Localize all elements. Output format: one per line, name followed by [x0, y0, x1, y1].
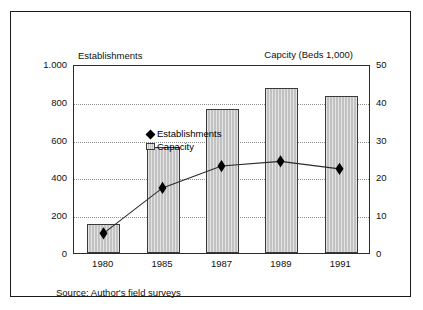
left-axis-tick: 800 [33, 98, 67, 108]
legend-item-capacity: Capacity [146, 141, 221, 154]
legend-item-establishments: Establishments [146, 128, 221, 141]
diamond-marker [218, 160, 226, 172]
right-axis-tick: 40 [376, 98, 404, 108]
legend-label-establishments: Establishments [157, 128, 221, 141]
left-axis-tick: 200 [33, 211, 67, 221]
x-axis-tick: 1991 [312, 258, 368, 269]
source-note: Source: Author's field surveys [56, 287, 181, 298]
x-axis-tick-labels: 19801985198719891991 [73, 258, 370, 272]
chart-legend: Establishments Capacity [146, 128, 221, 153]
right-axis-tick: 30 [376, 136, 404, 146]
diamond-marker [336, 163, 344, 175]
x-axis-tick: 1985 [134, 258, 190, 269]
x-axis-tick: 1989 [253, 258, 309, 269]
chart-frame: Establishments Capcity (Beds 1,000) 0200… [10, 11, 411, 297]
x-axis-tick: 1987 [194, 258, 250, 269]
left-axis-tick-labels: 02004006008001.000 [33, 65, 67, 254]
right-axis-title: Capcity (Beds 1,000) [264, 49, 353, 60]
plot-area: Establishments Capacity [73, 65, 370, 254]
diamond-marker [100, 227, 108, 239]
left-axis-tick: 1.000 [33, 60, 67, 70]
left-axis-tick: 600 [33, 136, 67, 146]
diamond-marker-icon [146, 129, 156, 139]
x-axis-tick: 1980 [75, 258, 131, 269]
left-axis-title: Establishments [78, 50, 142, 61]
left-axis-tick: 400 [33, 173, 67, 183]
line-series-establishments [74, 66, 369, 253]
diamond-marker [159, 182, 167, 194]
left-axis-tick: 0 [33, 249, 67, 259]
diamond-marker [277, 155, 285, 167]
right-axis-tick: 20 [376, 173, 404, 183]
right-axis-tick: 0 [376, 249, 404, 259]
legend-label-capacity: Capacity [157, 141, 194, 154]
right-axis-tick-labels: 01020304050 [376, 65, 404, 254]
right-axis-tick: 50 [376, 60, 404, 70]
bar-swatch-icon [146, 143, 155, 150]
right-axis-tick: 10 [376, 211, 404, 221]
